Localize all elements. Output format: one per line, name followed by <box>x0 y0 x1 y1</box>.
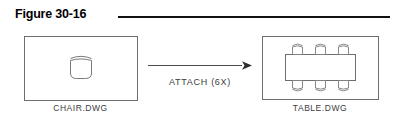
chair-seat-body <box>71 59 92 79</box>
table-drawing-caption: TABLE.DWG <box>262 103 378 113</box>
table-drawing-panel <box>263 37 379 100</box>
figure-header-rule <box>118 16 390 18</box>
chair-seat-body <box>316 81 326 90</box>
attach-operation-label: ATTACH (6X) <box>148 77 252 87</box>
chair-seat-body <box>339 81 349 90</box>
chair-seat-body <box>316 46 326 55</box>
arrow-head-icon <box>242 61 252 70</box>
chair-seat-body <box>293 81 303 90</box>
chair-symbol <box>71 56 92 78</box>
table-top-symbol <box>286 55 356 81</box>
chair-drawing-caption: CHAIR.DWG <box>24 103 137 113</box>
figure-container: Figure 30-16 <box>0 0 395 136</box>
attach-arrow <box>148 61 252 70</box>
chair-seat-body <box>293 46 303 55</box>
figure-title: Figure 30-16 <box>15 7 86 21</box>
chair-drawing-panel <box>25 37 138 101</box>
chair-seat-body <box>339 46 349 55</box>
figure-header: Figure 30-16 <box>0 0 395 30</box>
